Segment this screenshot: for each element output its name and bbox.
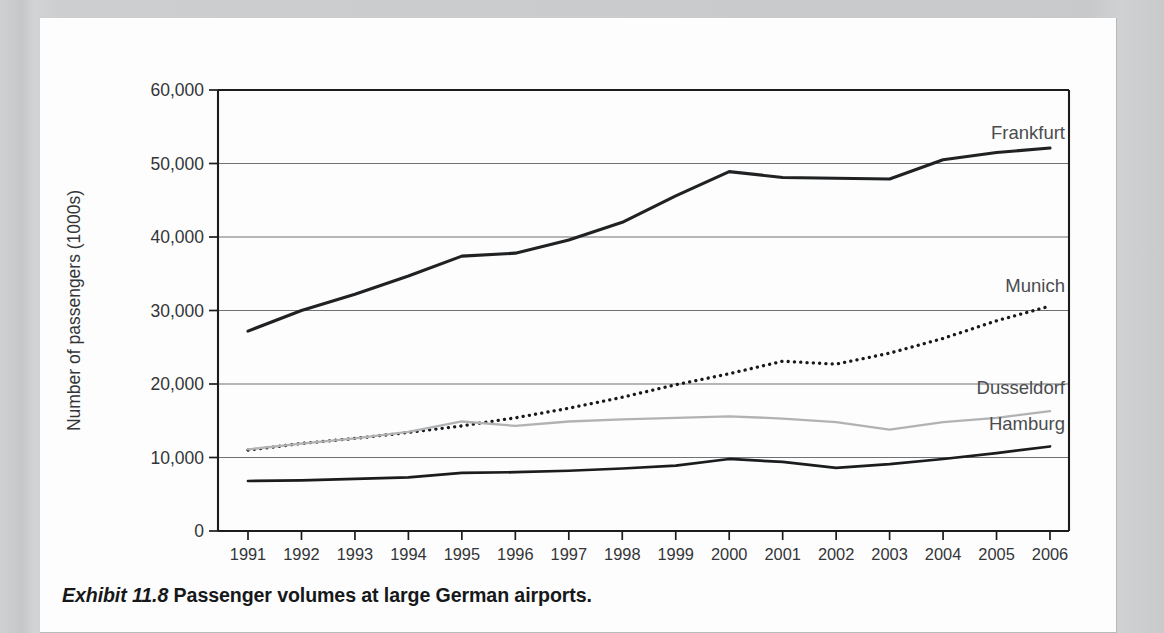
x-tick-label: 1994	[390, 545, 426, 563]
figure-caption: Exhibit 11.8 Passenger volumes at large …	[62, 584, 1102, 607]
series-line-dusseldorf	[248, 411, 1050, 449]
y-tick-label: 10,000	[150, 448, 204, 468]
series-line-hamburg	[248, 446, 1050, 481]
x-tick-label: 2002	[818, 545, 854, 563]
x-tick-label: 1999	[657, 545, 693, 563]
x-tick-label: 1998	[604, 545, 640, 563]
series-line-frankfurt	[248, 148, 1050, 331]
y-tick-label: 40,000	[150, 227, 204, 247]
x-tick-label: 1993	[337, 545, 373, 563]
y-tick-label-group: 010,00020,00030,00040,00050,00060,000	[150, 80, 204, 541]
series-label-frankfurt: Frankfurt	[991, 122, 1065, 143]
line-chart: 010,00020,00030,00040,00050,00060,000 19…	[40, 18, 1117, 573]
y-tick-label: 60,000	[150, 80, 204, 100]
series-label-munich: Munich	[1005, 275, 1065, 296]
series-label-hamburg: Hamburg	[989, 413, 1065, 434]
y-tick-label: 30,000	[150, 301, 204, 321]
series-label-dusseldorf: Dusseldorf	[977, 377, 1066, 398]
data-series-group	[248, 148, 1050, 481]
x-tick-label: 2004	[925, 545, 961, 563]
y-tick-label: 50,000	[150, 154, 204, 174]
series-line-munich	[248, 306, 1050, 450]
x-tick-label: 2001	[764, 545, 800, 563]
x-tick-label: 1991	[230, 545, 266, 563]
x-tick-label: 2006	[1032, 545, 1068, 563]
x-tick-label-group: 1991199219931994199519961997199819992000…	[230, 545, 1068, 563]
caption-text: Passenger volumes at large German airpor…	[174, 584, 592, 606]
y-tick-label: 20,000	[150, 374, 204, 394]
gridline-group	[218, 90, 1069, 531]
exhibit-number: Exhibit 11.8	[62, 584, 168, 606]
y-tick-group	[209, 90, 218, 531]
chart-figure: 010,00020,00030,00040,00050,00060,000 19…	[40, 18, 1117, 573]
y-axis-title: Number of passengers (1000s)	[64, 190, 84, 431]
y-tick-label: 0	[194, 521, 204, 541]
book-page-panel: 010,00020,00030,00040,00050,00060,000 19…	[40, 18, 1117, 633]
x-tick-label: 2005	[978, 545, 1014, 563]
x-tick-group	[248, 531, 1050, 540]
x-tick-label: 1992	[283, 545, 319, 563]
x-tick-label: 2003	[871, 545, 907, 563]
x-tick-label: 2000	[711, 545, 747, 563]
x-tick-label: 1996	[497, 545, 533, 563]
x-tick-label: 1997	[551, 545, 587, 563]
series-label-group: FrankfurtMunichDusseldorfHamburg	[977, 122, 1066, 434]
x-tick-label: 1995	[444, 545, 480, 563]
